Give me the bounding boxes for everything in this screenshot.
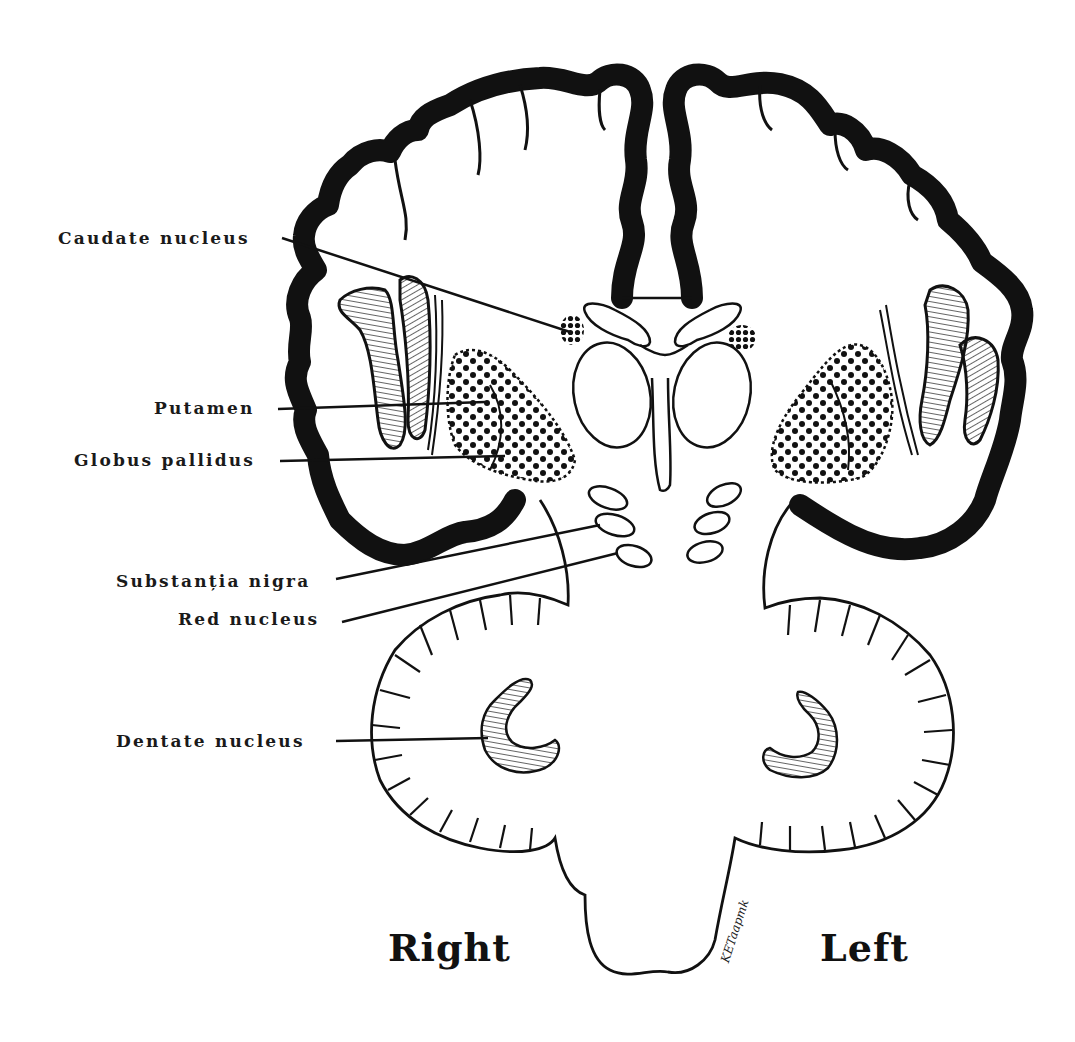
brain-illustration [0, 0, 1075, 1042]
midbrain-nuclei [586, 478, 745, 571]
leader-dentate [336, 738, 488, 741]
insula-left [880, 286, 998, 455]
label-red-nucleus: Red nucleus [178, 609, 319, 629]
cerebellum [372, 500, 954, 974]
label-caudate-nucleus: Caudate nucleus [58, 228, 250, 248]
label-putamen: Putamen [154, 398, 255, 418]
lateral-ventricles [584, 304, 741, 356]
lentiform-nucleus-right [448, 350, 576, 482]
label-globus-pallidus: Globus pallidus [74, 450, 255, 470]
lentiform-nucleus-left [772, 344, 893, 482]
label-right-side: Right [388, 925, 511, 970]
cerebellar-folia-right [372, 595, 540, 850]
thalamus [564, 335, 760, 491]
label-left-side: Left [820, 925, 909, 970]
dentate-nucleus-shapes [482, 679, 837, 777]
label-dentate-nucleus: Dentate nucleus [116, 731, 305, 751]
label-substantia-nigra: Substanția nigra [116, 571, 310, 591]
diagram-canvas: Caudate nucleus Putamen Globus pallidus … [0, 0, 1075, 1042]
insula-right [339, 277, 443, 455]
leader-red [342, 553, 618, 622]
